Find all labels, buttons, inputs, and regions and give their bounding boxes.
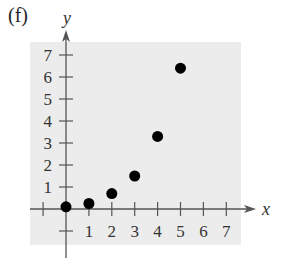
x-tick-label: 2 (108, 222, 117, 241)
y-axis-label: y (61, 8, 71, 28)
y-tick-label: 6 (44, 68, 53, 87)
data-point (83, 198, 94, 209)
data-point (152, 131, 163, 142)
x-tick-label: 6 (199, 222, 208, 241)
data-point (106, 188, 117, 199)
x-tick-label: 1 (85, 222, 94, 241)
y-tick-label: 7 (44, 46, 53, 65)
data-point (129, 171, 140, 182)
x-tick-label: 3 (130, 222, 139, 241)
x-axis-label: x (261, 199, 270, 219)
x-tick-label: 7 (222, 222, 231, 241)
x-tick-label: 4 (153, 222, 162, 241)
y-tick-label: 5 (44, 90, 53, 109)
scatter-chart: 12345671234567xy (0, 0, 284, 260)
x-tick-label: 5 (176, 222, 185, 241)
y-tick-label: 2 (44, 156, 53, 175)
y-tick-label: 3 (44, 134, 53, 153)
data-point (61, 201, 72, 212)
data-point (175, 63, 186, 74)
y-tick-label: 4 (44, 112, 53, 131)
y-tick-label: 1 (44, 178, 53, 197)
